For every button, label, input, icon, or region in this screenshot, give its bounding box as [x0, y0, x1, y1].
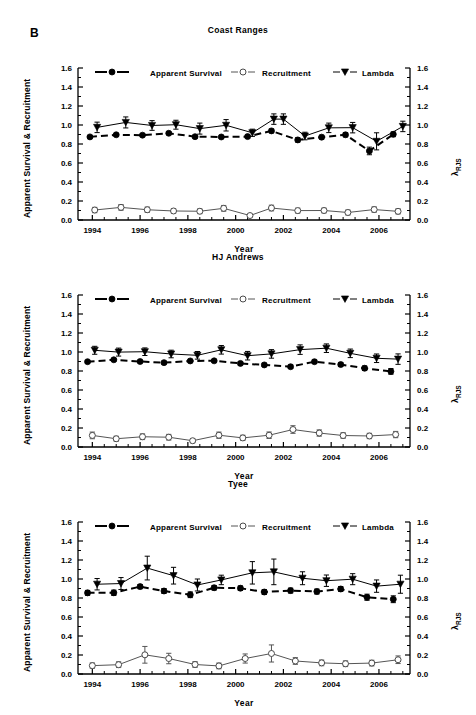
svg-text:1994: 1994	[83, 226, 101, 235]
svg-text:1.0: 1.0	[61, 348, 73, 357]
legend-item-recruitment[interactable]: Recruitment	[231, 523, 311, 532]
legend-label: Lambda	[362, 296, 394, 305]
legend-label: Apparent Survival	[150, 296, 222, 305]
x-axis-ticks: 1994199619982000200220042006	[83, 442, 402, 462]
svg-text:1.2: 1.2	[417, 102, 429, 111]
legend-label: Apparent Survival	[150, 523, 222, 532]
svg-text:0.8: 0.8	[417, 140, 429, 149]
svg-text:0.0: 0.0	[61, 216, 73, 225]
svg-text:0.8: 0.8	[417, 367, 429, 376]
svg-text:1.2: 1.2	[61, 102, 73, 111]
svg-text:1998: 1998	[179, 453, 197, 462]
svg-text:2002: 2002	[275, 453, 293, 462]
legend: Apparent SurvivalRecruitmentLambda	[95, 69, 394, 78]
plot-area: 0.00.00.20.20.40.40.60.60.80.81.01.01.21…	[0, 20, 476, 258]
plot-area: 0.00.00.20.20.40.40.60.60.80.81.01.01.21…	[0, 474, 476, 712]
legend-item-recruitment[interactable]: Recruitment	[231, 69, 311, 78]
svg-text:2006: 2006	[370, 226, 388, 235]
series-recruitment	[89, 645, 401, 669]
svg-text:1.6: 1.6	[417, 64, 429, 73]
svg-text:1.2: 1.2	[61, 556, 73, 565]
svg-text:0.6: 0.6	[417, 386, 429, 395]
svg-text:1994: 1994	[83, 453, 101, 462]
series-apparent-survival	[85, 357, 394, 375]
svg-text:2004: 2004	[322, 680, 340, 689]
svg-text:2002: 2002	[275, 226, 293, 235]
svg-text:1.6: 1.6	[61, 291, 73, 300]
svg-text:1.0: 1.0	[417, 348, 429, 357]
svg-text:1.0: 1.0	[417, 121, 429, 130]
legend-label: Recruitment	[262, 523, 311, 532]
svg-text:0.6: 0.6	[61, 613, 73, 622]
svg-text:0.0: 0.0	[417, 216, 429, 225]
series-apparent-survival	[85, 584, 397, 603]
svg-text:1.6: 1.6	[61, 64, 73, 73]
chart-panel-coast-ranges: BCoast RangesApparent Survival & Recruit…	[0, 20, 476, 258]
legend: Apparent SurvivalRecruitmentLambda	[95, 523, 394, 532]
series-recruitment	[92, 204, 401, 218]
svg-text:0.2: 0.2	[61, 651, 73, 660]
svg-text:2000: 2000	[227, 453, 245, 462]
legend-label: Recruitment	[262, 296, 311, 305]
svg-text:1998: 1998	[179, 680, 197, 689]
svg-text:1.4: 1.4	[61, 83, 73, 92]
svg-text:1996: 1996	[131, 453, 149, 462]
svg-text:1994: 1994	[83, 680, 101, 689]
svg-text:0.0: 0.0	[417, 670, 429, 679]
svg-text:1998: 1998	[179, 226, 197, 235]
svg-text:0.0: 0.0	[61, 443, 73, 452]
svg-text:2000: 2000	[227, 226, 245, 235]
svg-text:1996: 1996	[131, 226, 149, 235]
svg-text:1.0: 1.0	[61, 121, 73, 130]
figure-panel-b: BCoast RangesApparent Survival & Recruit…	[0, 0, 476, 715]
svg-text:0.8: 0.8	[61, 367, 73, 376]
y-axis-ticks: 0.00.00.20.20.40.40.60.60.80.81.01.01.21…	[61, 64, 429, 225]
y-axis-ticks: 0.00.00.20.20.40.40.60.60.80.81.01.01.21…	[61, 291, 429, 452]
svg-text:0.6: 0.6	[417, 613, 429, 622]
x-axis-ticks: 1994199619982000200220042006	[83, 669, 402, 689]
svg-text:2006: 2006	[370, 680, 388, 689]
svg-text:1.6: 1.6	[61, 518, 73, 527]
legend-item-apparent-survival[interactable]: Apparent Survival	[95, 69, 222, 78]
svg-text:1.2: 1.2	[417, 329, 429, 338]
legend-label: Lambda	[362, 523, 394, 532]
svg-text:0.2: 0.2	[417, 197, 429, 206]
svg-text:2004: 2004	[322, 226, 340, 235]
legend: Apparent SurvivalRecruitmentLambda	[95, 296, 394, 305]
legend-item-lambda[interactable]: Lambda	[333, 523, 394, 532]
legend-item-apparent-survival[interactable]: Apparent Survival	[95, 296, 222, 305]
svg-text:2002: 2002	[275, 680, 293, 689]
svg-text:0.8: 0.8	[61, 594, 73, 603]
svg-text:2000: 2000	[227, 680, 245, 689]
svg-text:0.4: 0.4	[417, 178, 429, 187]
axis-frame	[78, 295, 410, 447]
svg-text:0.2: 0.2	[61, 424, 73, 433]
svg-text:0.4: 0.4	[61, 178, 73, 187]
legend-item-recruitment[interactable]: Recruitment	[231, 296, 311, 305]
svg-text:0.6: 0.6	[417, 159, 429, 168]
svg-text:1.4: 1.4	[417, 310, 429, 319]
svg-text:1.6: 1.6	[417, 291, 429, 300]
svg-text:0.0: 0.0	[417, 443, 429, 452]
svg-text:1.2: 1.2	[61, 329, 73, 338]
svg-text:0.8: 0.8	[61, 140, 73, 149]
svg-text:1.0: 1.0	[61, 575, 73, 584]
svg-text:1.0: 1.0	[417, 575, 429, 584]
series-recruitment	[89, 426, 398, 444]
svg-text:0.6: 0.6	[61, 386, 73, 395]
chart-panel-tyee: TyeeApparent Survival & RecruitmentλRJSY…	[0, 474, 476, 712]
legend-item-lambda[interactable]: Lambda	[333, 69, 394, 78]
legend-item-lambda[interactable]: Lambda	[333, 296, 394, 305]
svg-text:0.4: 0.4	[61, 405, 73, 414]
svg-text:2006: 2006	[370, 453, 388, 462]
axis-frame	[78, 522, 410, 674]
series-apparent-survival	[87, 128, 396, 155]
svg-text:1.4: 1.4	[61, 537, 73, 546]
legend-item-apparent-survival[interactable]: Apparent Survival	[95, 523, 222, 532]
svg-text:1996: 1996	[131, 680, 149, 689]
plot-area: 0.00.00.20.20.40.40.60.60.80.81.01.01.21…	[0, 247, 476, 485]
svg-text:1.4: 1.4	[61, 310, 73, 319]
svg-text:0.4: 0.4	[417, 405, 429, 414]
svg-text:0.0: 0.0	[61, 670, 73, 679]
svg-text:1.6: 1.6	[417, 518, 429, 527]
